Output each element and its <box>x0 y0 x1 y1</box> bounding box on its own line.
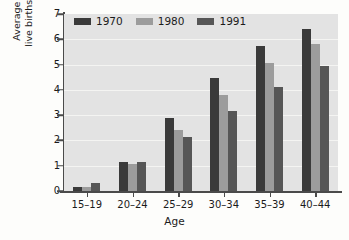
bar-group <box>247 14 293 191</box>
legend-swatch-icon <box>197 18 214 25</box>
legend-swatch-icon <box>74 18 91 25</box>
bar <box>137 162 146 191</box>
y-axis-tick-mark <box>57 190 63 192</box>
y-axis-tick-mark <box>57 13 63 15</box>
legend-item-1991: 1991 <box>197 16 246 27</box>
plot-area <box>64 14 338 191</box>
y-axis-tick-mark <box>57 89 63 91</box>
bar <box>302 29 311 191</box>
bar-group <box>201 14 247 191</box>
bar <box>311 44 320 191</box>
x-axis-tick-label: 25–29 <box>163 199 193 210</box>
bar-group <box>292 14 338 191</box>
legend-item-1970: 1970 <box>74 16 123 27</box>
x-axis-tick-mark <box>133 192 135 197</box>
y-axis-tick-mark <box>57 64 63 66</box>
bar <box>174 130 183 191</box>
bar <box>91 183 100 191</box>
x-axis-line <box>60 191 342 193</box>
x-axis-tick-label: 35–39 <box>254 199 284 210</box>
bar-chart-figure: Average number of live births per woman … <box>0 0 349 240</box>
y-axis-tick-mark <box>57 39 63 41</box>
bar <box>256 46 265 191</box>
y-axis-title-line-1: Average number of <box>11 0 23 41</box>
bar <box>320 66 329 191</box>
x-axis-title: Age <box>0 215 349 227</box>
y-axis-title-line-2: live births per woman <box>23 0 35 47</box>
x-axis-tick-mark <box>224 192 226 197</box>
bar <box>73 187 82 191</box>
bar-group <box>110 14 156 191</box>
x-axis-tick-label: 15–19 <box>72 199 102 210</box>
legend-label: 1980 <box>158 16 185 27</box>
x-axis-tick-mark <box>87 192 89 197</box>
bar-group <box>155 14 201 191</box>
bar <box>228 111 237 191</box>
bar <box>274 87 283 191</box>
y-axis-tick-mark <box>57 165 63 167</box>
x-axis-tick-label: 20–24 <box>117 199 147 210</box>
legend-swatch-icon <box>136 18 153 25</box>
chart-legend: 197019801991 <box>74 16 246 27</box>
x-axis-tick-label: 30–34 <box>209 199 239 210</box>
bar <box>128 164 137 191</box>
bar <box>265 63 274 191</box>
bar <box>119 162 128 191</box>
legend-item-1980: 1980 <box>136 16 185 27</box>
bar <box>82 187 91 191</box>
y-axis-title: Average number of live births per woman <box>6 0 40 70</box>
bar <box>210 78 219 191</box>
legend-label: 1970 <box>96 16 123 27</box>
x-axis-tick-mark <box>315 192 317 197</box>
y-axis-tick-mark <box>57 140 63 142</box>
y-axis-tick-mark <box>57 114 63 116</box>
x-axis-tick-label: 40–44 <box>300 199 330 210</box>
legend-label: 1991 <box>219 16 246 27</box>
x-axis-tick-mark <box>178 192 180 197</box>
y-axis-tick-labels: 01234567 <box>46 8 60 198</box>
bar-group <box>64 14 110 191</box>
bar <box>219 95 228 191</box>
bar <box>183 137 192 191</box>
x-axis-tick-mark <box>270 192 272 197</box>
bar <box>165 118 174 191</box>
